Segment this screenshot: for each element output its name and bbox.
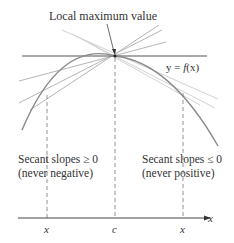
local-max-label: Local maximum value — [49, 9, 157, 23]
label-pointer-line — [107, 24, 114, 52]
right-note-line1: Secant slopes ≤ 0 — [142, 153, 222, 166]
curve-label: y = f(x) — [166, 61, 199, 74]
left-note-line1: Secant slopes ≥ 0 — [18, 153, 98, 166]
left-note-line2: (never negative) — [18, 167, 93, 180]
x-axis-label: x — [207, 212, 213, 224]
dashed-verticals — [47, 58, 183, 218]
tick-label-right-x: x — [179, 223, 185, 235]
left-secant-lines — [19, 25, 166, 110]
tick-label-left-x: x — [43, 223, 49, 235]
tick-label-c: c — [112, 223, 117, 235]
local-max-diagram: Local maximum value y = f(x) Secant slop… — [0, 0, 234, 243]
right-note-line2: (never positive) — [142, 167, 215, 180]
